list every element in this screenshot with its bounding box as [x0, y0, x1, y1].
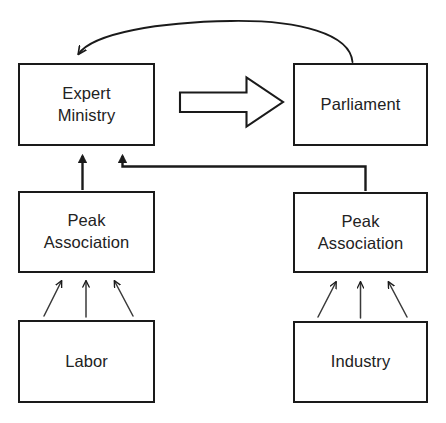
- labor-to-peak-left-arrow-a: [44, 281, 62, 316]
- node-peak-association-labor[interactable]: Peak Association: [18, 191, 155, 273]
- node-labor-label: Labor: [61, 351, 112, 373]
- node-industry[interactable]: Industry: [293, 321, 428, 403]
- node-parliament[interactable]: Parliament: [293, 63, 428, 146]
- node-expert-ministry[interactable]: Expert Ministry: [18, 63, 155, 146]
- node-expert-ministry-label: Expert Ministry: [54, 83, 120, 127]
- industry-to-peak-right-arrow-a: [318, 282, 336, 317]
- node-labor[interactable]: Labor: [18, 320, 155, 403]
- node-peak-association-labor-label: Peak Association: [40, 210, 133, 254]
- node-parliament-label: Parliament: [317, 94, 405, 116]
- industry-to-peak-right-arrow-c: [389, 282, 408, 317]
- diagram-canvas: Expert Ministry Parliament Peak Associat…: [0, 0, 446, 423]
- labor-to-peak-left-arrow-c: [115, 281, 134, 316]
- node-peak-association-industry-label: Peak Association: [314, 211, 407, 255]
- parliament-to-ministry-curve-arrow: [79, 21, 353, 62]
- peak-right-to-ministry-arrow: [123, 156, 366, 191]
- ministry-to-parliament-block-arrow: [180, 78, 283, 127]
- node-industry-label: Industry: [327, 351, 395, 373]
- node-peak-association-industry[interactable]: Peak Association: [293, 192, 428, 273]
